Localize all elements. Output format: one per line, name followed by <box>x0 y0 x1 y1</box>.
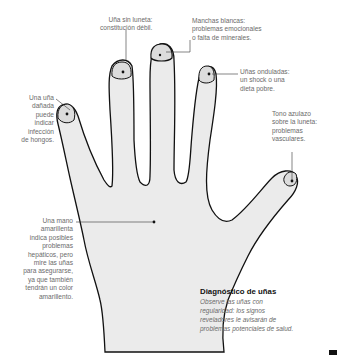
info-box-title: Diagnóstico de uñas <box>200 287 276 296</box>
nail-thumb <box>284 172 297 186</box>
nail-middle <box>151 44 172 61</box>
palm-dot <box>153 221 156 224</box>
label-wavy-nails: Uñas onduladas: un shock o una dieta pob… <box>240 68 290 93</box>
label-white-spots: Manchas blancas: problemas emocionales o… <box>192 17 262 42</box>
info-box-text: Observe las uñas con regularidad: los si… <box>200 297 293 333</box>
nail-ring <box>112 62 131 79</box>
label-bluish-tone: Tono azulazo sobre la luneta: problemas … <box>272 110 317 144</box>
label-damaged-nail: Una uña dañada puede indicar infección d… <box>21 94 54 144</box>
page-corner-mark <box>329 350 337 355</box>
label-yellow-hand: Una mano amarillenta indica posibles pro… <box>23 217 73 301</box>
nail-index <box>199 66 214 83</box>
label-weak-nail: Uña sin luneta: constitución débil. <box>100 16 152 33</box>
